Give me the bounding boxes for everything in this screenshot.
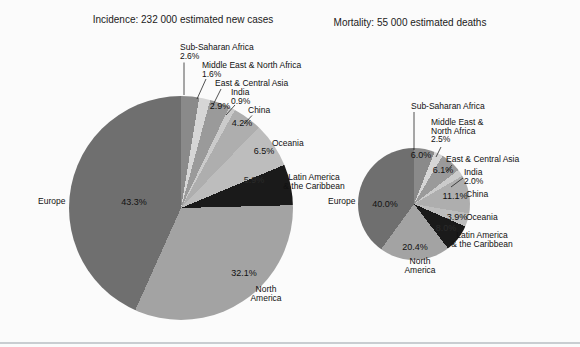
leader-line	[197, 79, 206, 99]
mortality-label-europe: Europe	[328, 197, 355, 206]
mortality-label-north-america: North America	[397, 257, 443, 274]
label-line: East & Central Asia	[446, 155, 519, 164]
incidence-pct-oceania: 6.5%	[247, 147, 281, 156]
mortality-label-middle-east-north-africa: Middle East & North Africa 2.5%	[431, 118, 483, 144]
incidence-pct-latin-america: 5.9%	[237, 176, 271, 185]
incidence-pct-north-america: 32.1%	[227, 269, 261, 278]
label-line: & the Caribbean	[278, 182, 350, 191]
mortality-pct-sub-saharan-africa: 6.0%	[404, 151, 438, 160]
label-line: China	[248, 106, 270, 115]
mortality-pct-oceania: 3.9%	[440, 213, 474, 222]
label-line: America	[397, 266, 443, 275]
mortality-label-latin-america-caribbean: Latin America & the Caribbean	[451, 231, 513, 248]
mortality-label-east-central-asia: East & Central Asia	[446, 155, 519, 164]
incidence-label-east-central-asia: East & Central Asia	[215, 79, 288, 88]
label-line: Sub-Saharan Africa	[411, 102, 485, 111]
label-line: Europe	[38, 197, 65, 206]
incidence-pct-east-central-asia: 2.9%	[203, 102, 237, 111]
incidence-pct-europe: 43.3%	[117, 198, 151, 207]
footer-rule	[0, 342, 580, 344]
incidence-label-china: China	[248, 106, 270, 115]
incidence-pct-china: 4.2%	[225, 119, 259, 128]
mortality-label-sub-saharan-africa: Sub-Saharan Africa	[411, 102, 485, 111]
mortality-pct-europe: 40.0%	[368, 200, 402, 209]
label-line: East & Central Asia	[215, 79, 288, 88]
incidence-label-europe: Europe	[38, 197, 65, 206]
label-line: America	[243, 294, 289, 303]
mortality-pct-latin-america: 8.0%	[429, 224, 463, 233]
label-line: 2.5%	[431, 135, 483, 144]
label-line: 2.6%	[180, 52, 254, 61]
label-line: & the Caribbean	[451, 240, 513, 249]
label-line: 2.0%	[464, 177, 483, 186]
incidence-label-sub-saharan-africa: Sub-Saharan Africa 2.6%	[180, 43, 254, 60]
figure-two-pie-charts: Incidence: 232 000 estimated new cases M…	[0, 0, 580, 347]
incidence-label-latin-america-caribbean: Latin America & the Caribbean	[278, 173, 350, 190]
incidence-label-north-america: North America	[243, 285, 289, 302]
incidence-chart-title: Incidence: 232 000 estimated new cases	[58, 14, 308, 25]
mortality-pct-china: 11.1%	[438, 192, 472, 201]
mortality-pct-north-america: 20.4%	[398, 243, 432, 252]
incidence-label-middle-east-north-africa: Middle East & North Africa 1.6%	[202, 61, 301, 78]
label-line: Europe	[328, 197, 355, 206]
mortality-pct-east-central-asia: 6.1%	[426, 166, 460, 175]
mortality-chart-title: Mortality: 55 000 estimated deaths	[285, 17, 535, 28]
mortality-label-india: India 2.0%	[464, 168, 483, 185]
label-line: 1.6%	[202, 70, 301, 79]
